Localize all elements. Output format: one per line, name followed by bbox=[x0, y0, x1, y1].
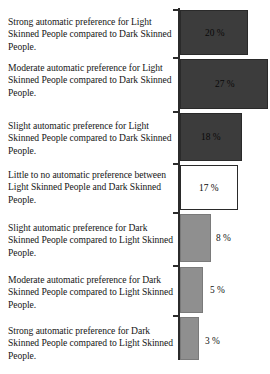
axis-tick-2 bbox=[173, 111, 179, 113]
axis-tick-5 bbox=[173, 265, 179, 267]
axis-tick-6 bbox=[173, 315, 179, 317]
bar-category-label: Strong automatic preference for Dark Ski… bbox=[8, 325, 174, 362]
bar-value-label: 8 % bbox=[216, 233, 231, 243]
bar-segment[interactable] bbox=[180, 267, 203, 313]
bar-segment[interactable] bbox=[180, 214, 211, 262]
bar-value-label: 17 % bbox=[199, 183, 219, 193]
bar-value-label: 18 % bbox=[201, 132, 221, 142]
bar-category-label: Slight automatic preference for Dark Ski… bbox=[8, 222, 174, 259]
bar-category-label: Moderate automatic preference for Light … bbox=[8, 62, 174, 99]
bar-segment[interactable] bbox=[180, 317, 199, 360]
bar-value-label: 27 % bbox=[215, 79, 235, 89]
bar-category-label: Little to no automatic preference betwee… bbox=[8, 169, 174, 206]
axis-tick-0 bbox=[173, 9, 179, 11]
bar-category-label: Strong automatic preference for Light Sk… bbox=[8, 16, 174, 53]
axis-tick-4 bbox=[173, 212, 179, 214]
axis-tick-1 bbox=[173, 57, 179, 59]
axis-tick-3 bbox=[173, 163, 179, 165]
bar-value-label: 5 % bbox=[210, 285, 225, 295]
bar-category-label: Slight automatic preference for Light Sk… bbox=[8, 120, 174, 157]
bar-value-label: 20 % bbox=[205, 28, 225, 38]
bar-category-label: Moderate automatic preference for Dark S… bbox=[8, 274, 174, 311]
bar-value-label: 3 % bbox=[205, 336, 220, 346]
horizontal-bar-chart: Strong automatic preference for Light Sk… bbox=[0, 0, 270, 374]
